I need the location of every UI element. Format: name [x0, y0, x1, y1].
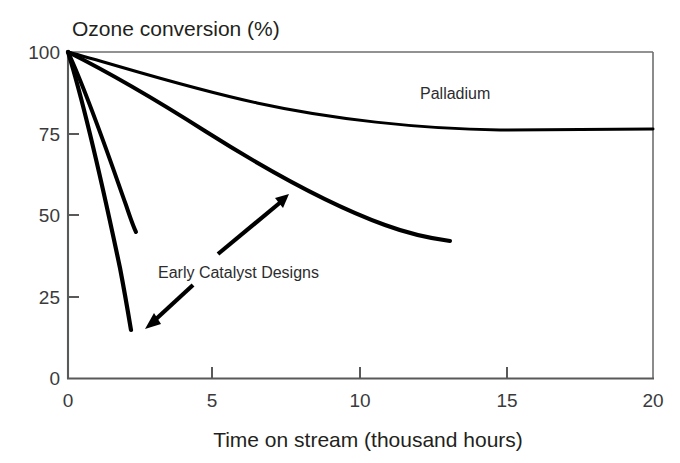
annotation-arrows [145, 194, 289, 329]
x-tick-label-10: 10 [349, 390, 370, 411]
arrow-shaft-down-left [155, 285, 193, 320]
series-line-early-a [68, 52, 450, 241]
series-curves [68, 52, 653, 330]
series-line-early-b [68, 52, 136, 232]
y-tick-label-25: 25 [39, 287, 60, 308]
y-tick-label-100: 100 [28, 42, 60, 63]
y-axis-title: Ozone conversion (%) [72, 17, 280, 40]
x-tick-label-15: 15 [496, 390, 517, 411]
x-tick-marks [212, 367, 507, 378]
arrow-shaft-up-right [218, 201, 282, 254]
ozone-conversion-figure: 100 75 50 25 0 0 5 10 15 20 Ozone conver… [0, 0, 680, 463]
y-tick-marks [68, 134, 79, 297]
arrow-to-steep-curve-icon [145, 285, 193, 329]
x-tick-label-0: 0 [63, 390, 74, 411]
y-tick-label-50: 50 [39, 205, 60, 226]
arrow-to-middle-curve-icon [218, 194, 289, 254]
annotation-label-early-catalyst: Early Catalyst Designs [158, 264, 319, 281]
x-tick-label-20: 20 [642, 390, 663, 411]
y-tick-label-0: 0 [49, 368, 60, 389]
chart-canvas: 100 75 50 25 0 0 5 10 15 20 Ozone conver… [0, 0, 680, 463]
x-axis-title: Time on stream (thousand hours) [213, 428, 523, 451]
x-tick-label-5: 5 [207, 390, 218, 411]
series-label-palladium: Palladium [420, 85, 490, 102]
y-tick-label-75: 75 [39, 124, 60, 145]
series-line-palladium [68, 52, 653, 130]
